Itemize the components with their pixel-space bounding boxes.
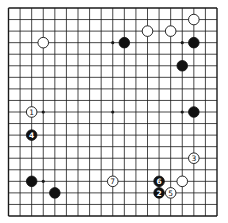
white-stone-disc bbox=[177, 176, 188, 187]
star-point bbox=[111, 110, 114, 113]
move-3-white-stone: 3 bbox=[189, 153, 200, 164]
black-stone bbox=[26, 176, 37, 187]
white-stone bbox=[38, 37, 49, 48]
star-point bbox=[181, 41, 184, 44]
move-2-black-stone: 2 bbox=[154, 188, 165, 199]
white-stone bbox=[165, 26, 176, 37]
white-stone-disc bbox=[189, 14, 200, 25]
move-number-label: 4 bbox=[29, 131, 34, 140]
black-stone-disc bbox=[119, 37, 130, 48]
white-stone bbox=[189, 14, 200, 25]
star-point bbox=[42, 180, 45, 183]
white-stone-disc bbox=[165, 26, 176, 37]
black-stone bbox=[189, 107, 200, 118]
move-1-white-stone: 1 bbox=[26, 107, 37, 118]
black-stone bbox=[119, 37, 130, 48]
black-stone-disc bbox=[189, 107, 200, 118]
star-point bbox=[111, 41, 114, 44]
white-stone bbox=[177, 176, 188, 187]
move-number-label: 6 bbox=[156, 177, 161, 186]
black-stone bbox=[50, 188, 61, 199]
black-stone bbox=[177, 60, 188, 71]
go-board: 1234567 bbox=[0, 0, 228, 223]
move-number-label: 2 bbox=[156, 189, 161, 198]
black-stone-disc bbox=[177, 60, 188, 71]
move-6-black-stone: 6 bbox=[154, 176, 165, 187]
move-number-label: 3 bbox=[191, 154, 196, 163]
black-stone-disc bbox=[189, 37, 200, 48]
move-number-label: 7 bbox=[110, 177, 115, 186]
white-stone-disc bbox=[142, 26, 153, 37]
white-stone-disc bbox=[38, 37, 49, 48]
star-point bbox=[42, 110, 45, 113]
move-5-white-stone: 5 bbox=[165, 188, 176, 199]
black-stone-disc bbox=[26, 176, 37, 187]
move-4-black-stone: 4 bbox=[26, 130, 37, 141]
black-stone-disc bbox=[50, 188, 61, 199]
move-7-white-stone: 7 bbox=[107, 176, 118, 187]
black-stone bbox=[189, 37, 200, 48]
star-point bbox=[181, 110, 184, 113]
white-stone bbox=[142, 26, 153, 37]
move-number-label: 5 bbox=[168, 189, 173, 198]
move-number-label: 1 bbox=[29, 108, 34, 117]
